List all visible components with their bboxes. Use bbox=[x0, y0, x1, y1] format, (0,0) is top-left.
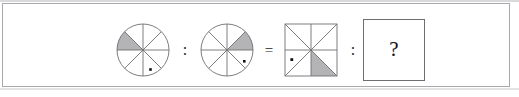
operator-ratio-1: : bbox=[175, 42, 195, 58]
figure-a-graphic bbox=[111, 18, 175, 82]
figure-b[interactable] bbox=[195, 18, 259, 82]
puzzle-frame: : = bbox=[2, 3, 510, 87]
figure-b-dot bbox=[243, 60, 246, 63]
figure-b-graphic bbox=[195, 18, 259, 82]
operator-equals: = bbox=[259, 43, 279, 58]
question-mark: ? bbox=[389, 39, 398, 62]
figure-a-dot bbox=[149, 68, 152, 71]
figure-c-graphic bbox=[279, 18, 343, 82]
figure-a-shaded-sector bbox=[117, 32, 143, 50]
analogy-row: : = bbox=[111, 14, 425, 86]
operator-ratio-2: : bbox=[343, 42, 363, 58]
scan-edge-top bbox=[0, 0, 519, 2]
scan-edge-bottom bbox=[0, 88, 519, 90]
figure-c[interactable] bbox=[279, 18, 343, 82]
figure-c-dot bbox=[290, 58, 293, 61]
answer-box[interactable]: ? bbox=[363, 19, 425, 81]
figure-a[interactable] bbox=[111, 18, 175, 82]
figure-b-shaded-sector bbox=[227, 32, 253, 50]
